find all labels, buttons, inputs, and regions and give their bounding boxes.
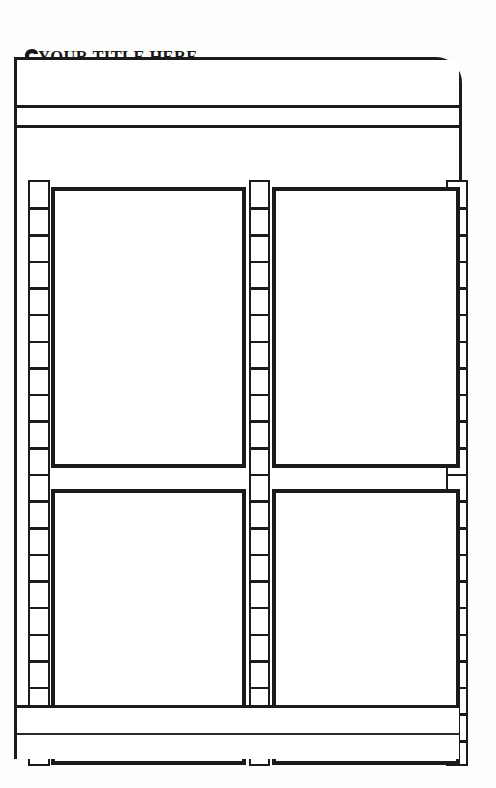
sprocket-divider (30, 527, 48, 530)
sprocket-divider (251, 341, 268, 344)
comic-panel[interactable] (51, 187, 246, 468)
comic-panel[interactable] (272, 187, 460, 468)
sprocket-divider (251, 367, 268, 370)
sprocket-divider (251, 527, 268, 530)
sprocket-divider (30, 287, 48, 290)
sprocket-divider (30, 634, 48, 637)
subheader-band[interactable] (17, 108, 459, 125)
sprocket-divider (30, 420, 48, 423)
sprocket-divider (251, 287, 268, 290)
comic-page-frame (14, 57, 462, 759)
sprocket-divider (251, 687, 268, 690)
footer-band-2[interactable] (17, 735, 459, 759)
sprocket-divider (251, 660, 268, 663)
sprocket-divider (30, 607, 48, 610)
sprocket-divider (251, 580, 268, 583)
sprocket-divider (251, 207, 268, 210)
sprocket-divider (30, 367, 48, 370)
sprocket-divider (30, 660, 48, 663)
sprocket-divider (251, 447, 268, 450)
sprocket-divider (30, 234, 48, 237)
footer-band-1[interactable] (17, 708, 459, 733)
sprocket-divider (251, 500, 268, 503)
sprocket-divider (30, 341, 48, 344)
sprocket-divider (251, 314, 268, 317)
sprocket-divider (251, 474, 268, 477)
sprocket-divider (30, 207, 48, 210)
sprocket-divider (30, 474, 48, 477)
sprocket-divider (251, 261, 268, 264)
sprocket-divider (30, 447, 48, 450)
left-sprocket-strip (28, 180, 50, 766)
sprocket-divider (30, 261, 48, 264)
comic-template-page: YOUR TITLE HERE (0, 0, 496, 788)
sprocket-divider (30, 314, 48, 317)
sprocket-divider (251, 420, 268, 423)
subheader-band-divider (17, 125, 459, 128)
sprocket-divider (251, 607, 268, 610)
sprocket-divider (30, 687, 48, 690)
sprocket-divider (30, 394, 48, 397)
sprocket-divider (251, 234, 268, 237)
sprocket-divider (30, 500, 48, 503)
center-sprocket-strip (249, 180, 270, 766)
sprocket-divider (251, 554, 268, 557)
sprocket-divider (251, 634, 268, 637)
sprocket-divider (448, 474, 466, 477)
sprocket-divider (30, 554, 48, 557)
sprocket-divider (251, 394, 268, 397)
header-band[interactable] (17, 60, 459, 105)
sprocket-divider (30, 580, 48, 583)
